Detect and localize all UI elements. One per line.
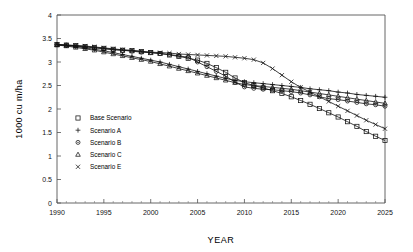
x-axis-ticks: 19901995200020052010201520202025	[49, 199, 393, 216]
y-tick-label: 1.5	[42, 129, 52, 136]
x-tick-label: 2005	[190, 209, 206, 216]
legend-item-scenario-c[interactable]: Scenario C	[76, 151, 122, 158]
plus-marker-icon	[76, 128, 81, 133]
x-tick-label: 2010	[237, 209, 253, 216]
chart-svg: 19901995200020052010201520202025 00.511.…	[0, 0, 413, 252]
figure: 19901995200020052010201520202025 00.511.…	[0, 0, 413, 252]
x-tick-label: 2025	[377, 209, 393, 216]
legend-item-scenario-a[interactable]: Scenario A	[76, 127, 122, 134]
x-tick-label: 1995	[96, 209, 112, 216]
y-axis-title: 1000 cu m/ha	[14, 79, 24, 138]
legend-item-label: Scenario C	[90, 151, 122, 158]
y-tick-label: 4	[48, 12, 52, 19]
triangle-marker-icon	[76, 152, 81, 156]
chart-root: 19901995200020052010201520202025 00.511.…	[0, 0, 413, 252]
legend-item-label: Scenario E	[90, 163, 121, 170]
y-tick-label: 2	[48, 106, 52, 113]
square-marker-icon	[76, 116, 80, 120]
y-tick-label: 3.5	[42, 35, 52, 42]
legend-item-label: Scenario B	[90, 139, 121, 146]
x-tick-label: 2000	[143, 209, 159, 216]
y-axis-ticks: 00.511.522.533.54	[42, 12, 61, 207]
cross-marker-icon	[76, 165, 80, 169]
y-tick-label: 2.5	[42, 82, 52, 89]
y-tick-label: 0.5	[42, 176, 52, 183]
legend-item-scenario-e[interactable]: Scenario E	[76, 163, 121, 170]
circle-marker-icon	[76, 140, 80, 144]
legend-item-label: Scenario A	[90, 127, 122, 134]
y-tick-label: 1	[48, 153, 52, 160]
legend-item-label: Base Scenario	[90, 114, 132, 121]
y-tick-label: 3	[48, 59, 52, 66]
plot-frame	[57, 15, 385, 203]
legend-item-scenario-b[interactable]: Scenario B	[76, 139, 121, 146]
legend-item-base-scenario[interactable]: Base Scenario	[76, 114, 132, 121]
x-tick-label: 1990	[49, 209, 65, 216]
chart-legend: Base ScenarioScenario AScenario BScenari…	[76, 114, 132, 170]
x-tick-label: 2015	[283, 209, 299, 216]
x-axis-title: YEAR	[208, 235, 235, 245]
x-tick-label: 2020	[330, 209, 346, 216]
y-tick-label: 0	[48, 200, 52, 207]
